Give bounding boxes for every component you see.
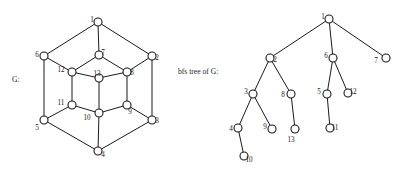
graph-node-5[interactable] [323, 90, 331, 98]
graph-node-label-12: 12 [57, 66, 65, 74]
graph-edge [103, 73, 123, 77]
graph-edge [101, 122, 148, 149]
graph-node-label-2: 2 [273, 56, 277, 64]
graph-node-1[interactable] [325, 15, 333, 23]
graph-edge [76, 106, 95, 112]
graph-edge [98, 26, 99, 51]
graph-edge [102, 57, 123, 70]
graph-node-5[interactable] [40, 116, 48, 124]
graph-node-label-1: 1 [321, 13, 325, 21]
graph-node-label-11: 11 [332, 124, 339, 132]
graph-node-label-11: 11 [58, 99, 65, 107]
graph-node-label-6: 6 [35, 51, 39, 59]
graph-node-7[interactable] [382, 54, 390, 62]
graph-edge [47, 122, 94, 149]
edges-layer [44, 21, 383, 152]
graph-node-label-9: 9 [263, 123, 267, 131]
graph-node-label-4: 4 [229, 125, 233, 133]
graph-node-label-9: 9 [128, 108, 132, 116]
graph-edge [327, 98, 329, 124]
graph-edge [47, 24, 94, 54]
graph-node-3[interactable] [249, 90, 257, 98]
graph-node-label-4: 4 [101, 151, 105, 159]
graph-node-8[interactable] [287, 90, 295, 98]
graph-node-label-1: 1 [90, 16, 94, 24]
bfs-tree-of-g-edges [239, 21, 383, 152]
graph-node-label-7: 7 [101, 49, 105, 57]
graph-edge [273, 21, 325, 56]
graph-node-label-3: 3 [155, 117, 159, 125]
graph-edge [291, 98, 294, 125]
graph-node-label-13: 13 [93, 70, 101, 78]
graph-edge [98, 117, 99, 147]
graph-node-6[interactable] [329, 54, 337, 62]
graph-node-label-10: 10 [245, 156, 253, 164]
graph-node-label-6: 6 [324, 52, 328, 60]
graph-node-9[interactable] [268, 125, 276, 133]
bfs-tree-of-g-nodes: 12673851249131110 [229, 13, 390, 164]
graph-edge [76, 73, 95, 77]
graph-edge [101, 24, 148, 54]
graph-edge [329, 23, 332, 54]
graph-edge [255, 62, 269, 91]
graph-node-label-5: 5 [35, 124, 39, 132]
graph-edge [240, 98, 252, 125]
graph-node-10[interactable] [95, 109, 103, 117]
graph-node-label-2: 2 [155, 54, 159, 62]
graph-g-nodes: 16271213811910534 [35, 16, 159, 159]
graph-edge [255, 98, 270, 126]
graph-edge [48, 107, 69, 118]
figure-root: 1627121381191053412673851249131110 G: bf… [0, 0, 408, 173]
graph-node-label-13: 13 [287, 136, 295, 144]
graph-node-4[interactable] [234, 124, 242, 132]
graph-edge [239, 132, 243, 152]
graph-canvas: 1627121381191053412673851249131110 [0, 0, 408, 173]
graph-node-13[interactable] [291, 125, 299, 133]
graph-g-edges [44, 24, 152, 149]
graph-edge [335, 62, 347, 90]
graph-edge [75, 57, 95, 70]
graph-node-11[interactable] [68, 101, 76, 109]
graph-node-label-5: 5 [317, 88, 321, 96]
graph-node-label-10: 10 [83, 114, 91, 122]
graph-edge [328, 62, 333, 90]
graph-edge [103, 106, 123, 112]
graph-edge [332, 21, 382, 55]
nodes-layer: 1627121381191053412673851249131110 [35, 13, 390, 164]
graph-node-label-8: 8 [130, 69, 134, 77]
graph-node-label-3: 3 [244, 88, 248, 96]
graph-node-label-8: 8 [281, 91, 285, 99]
graph-node-label-12: 12 [349, 88, 357, 96]
graph-node-label-7: 7 [374, 57, 378, 65]
graph-node-12[interactable] [68, 68, 76, 76]
bfs-tree-caption: bfs tree of G: [178, 67, 218, 76]
graph-edge [130, 107, 148, 118]
graph-node-1[interactable] [94, 18, 102, 26]
graph-edge [272, 61, 289, 90]
graph-node-6[interactable] [40, 52, 48, 60]
graph-g-caption: G: [12, 75, 20, 84]
